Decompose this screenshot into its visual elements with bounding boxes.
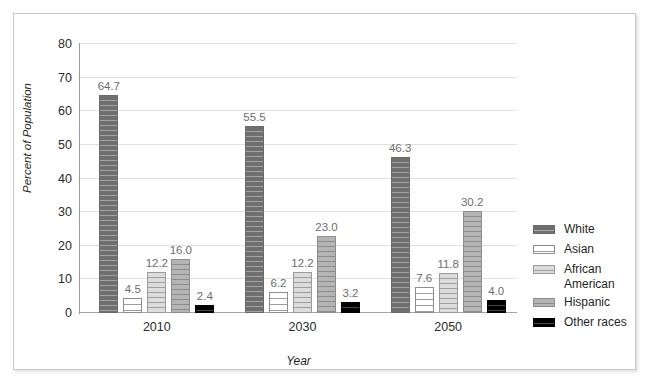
gridline: [80, 211, 517, 212]
legend-swatch-icon: [533, 245, 555, 254]
bar-other-races-2010: [195, 305, 214, 313]
legend-item-white[interactable]: White: [533, 222, 643, 239]
legend-item-asian[interactable]: Asian: [533, 242, 643, 259]
y-tick-label: 10: [18, 273, 72, 286]
bar-white-2030: [245, 126, 264, 313]
bar-african-american-2050: [439, 273, 458, 313]
bar-african-american-2030: [293, 272, 312, 313]
gridline: [80, 43, 517, 44]
legend-item-hispanic[interactable]: Hispanic: [533, 295, 643, 312]
bar-value-label: 16.0: [170, 244, 192, 256]
bar-value-label: 46.3: [389, 142, 411, 154]
bar-hispanic-2050: [463, 211, 482, 313]
legend-item-label: Asian: [564, 242, 594, 257]
x-tick-label: 2010: [143, 320, 171, 334]
legend-item-other-races[interactable]: Other races: [533, 315, 643, 332]
bar-value-label: 4.5: [125, 283, 141, 295]
bar-hispanic-2010: [171, 259, 190, 313]
legend-swatch-icon: [533, 225, 555, 234]
bar-value-label: 6.2: [271, 277, 287, 289]
bar-value-label: 55.5: [243, 111, 265, 123]
bar-value-label: 12.2: [291, 257, 313, 269]
plot-area: 64.74.512.216.02.455.56.212.223.03.246.3…: [80, 44, 517, 313]
gridline: [80, 110, 517, 111]
bar-value-label: 3.2: [343, 287, 359, 299]
y-tick-label: 20: [18, 240, 72, 253]
bar-white-2050: [391, 157, 410, 313]
bar-white-2010: [99, 95, 118, 313]
bar-other-races-2030: [341, 302, 360, 313]
gridline: [80, 178, 517, 179]
legend-item-label: Other races: [564, 315, 627, 330]
legend-swatch-icon: [533, 265, 555, 274]
legend-item-label: White: [564, 222, 595, 237]
bar-value-label: 23.0: [315, 221, 337, 233]
x-tick-label: 2030: [289, 320, 317, 334]
y-tick-label: 0: [18, 307, 72, 320]
chart-figure-frame: 01020304050607080 Percent of Population …: [13, 13, 636, 370]
bar-value-label: 12.2: [146, 257, 168, 269]
legend-item-label: Hispanic: [564, 295, 610, 310]
gridline: [80, 144, 517, 145]
legend-item-african-american[interactable]: African American: [533, 262, 643, 292]
gridline: [80, 245, 517, 246]
legend-swatch-icon: [533, 298, 555, 307]
bar-value-label: 64.7: [98, 80, 120, 92]
bar-asian-2050: [415, 287, 434, 313]
bar-value-label: 11.8: [437, 258, 459, 270]
y-axis-title: Percent of Population: [21, 48, 33, 228]
chart-legend: WhiteAsianAfrican AmericanHispanicOther …: [533, 222, 643, 335]
legend-swatch-icon: [533, 318, 555, 327]
bar-hispanic-2030: [317, 236, 336, 313]
x-axis-title: Year: [80, 354, 517, 368]
bar-value-label: 30.2: [461, 196, 483, 208]
bar-value-label: 2.4: [197, 290, 213, 302]
bar-value-label: 7.6: [416, 272, 432, 284]
gridline: [80, 77, 517, 78]
bar-other-races-2050: [487, 300, 506, 313]
bar-asian-2030: [269, 292, 288, 313]
x-tick-label: 2050: [434, 320, 462, 334]
bar-value-label: 4.0: [488, 285, 504, 297]
legend-item-label: African American: [564, 262, 643, 292]
bar-asian-2010: [123, 298, 142, 313]
bar-african-american-2010: [147, 272, 166, 313]
